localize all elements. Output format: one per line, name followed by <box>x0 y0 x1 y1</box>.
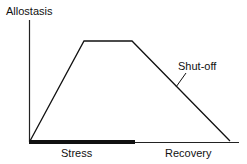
allostasis-curve <box>30 41 230 141</box>
shut-off-pointer <box>176 73 186 87</box>
stress-label: Stress <box>61 147 92 159</box>
recovery-label: Recovery <box>165 147 211 159</box>
stress-phase-bar <box>29 140 135 144</box>
shut-off-label: Shut-off <box>178 60 216 72</box>
diagram-graphic <box>0 0 247 164</box>
y-axis-label: Allostasis <box>6 5 52 17</box>
allostasis-diagram: Allostasis Shut-off Stress Recovery <box>0 0 247 164</box>
